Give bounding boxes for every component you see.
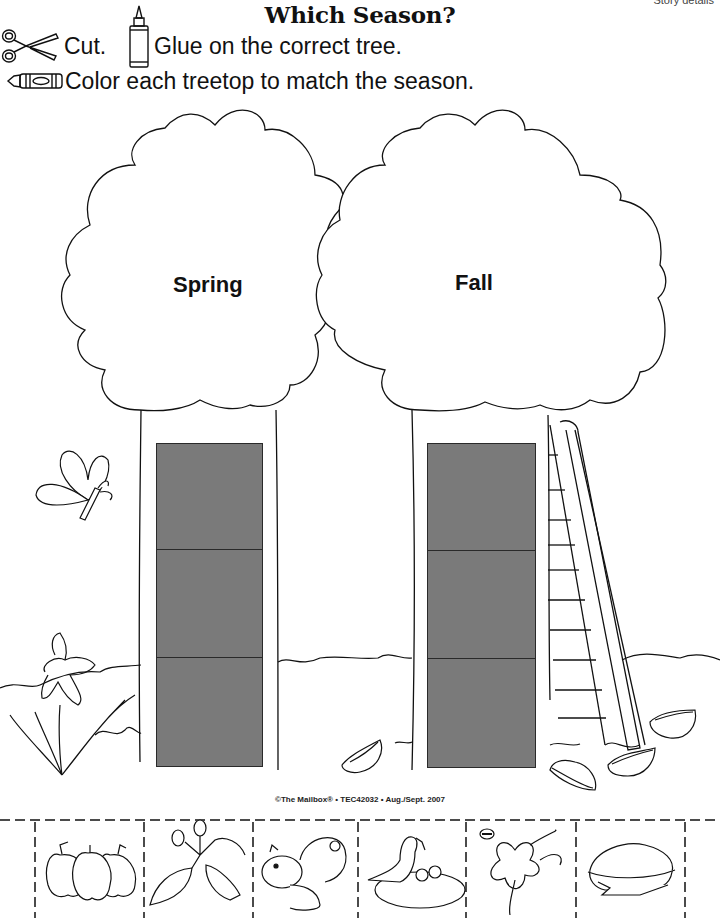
daffodil xyxy=(10,633,135,775)
spring-slot-2[interactable] xyxy=(156,549,263,658)
cutout-leaf-buds xyxy=(150,820,245,905)
cutout-squirrel xyxy=(262,838,346,910)
cutout-bee-flower xyxy=(480,829,561,915)
cutout-apples xyxy=(47,842,136,900)
cutout-bird-nest xyxy=(368,837,465,908)
fall-label: Fall xyxy=(455,270,493,296)
spring-slot-3[interactable] xyxy=(156,657,263,767)
cutout-pie xyxy=(588,844,675,895)
spring-treetop xyxy=(62,110,344,411)
butterfly xyxy=(36,451,112,520)
spring-label: Spring xyxy=(173,272,243,298)
copyright-footer: ©The Mailbox® • TEC42032 • Aug./Sept. 20… xyxy=(0,795,720,804)
fall-slot-3[interactable] xyxy=(427,658,536,768)
spring-slot-1[interactable] xyxy=(156,443,263,550)
fall-slot-1[interactable] xyxy=(427,443,536,551)
fall-treetop xyxy=(316,110,665,411)
ladder xyxy=(548,421,645,750)
fall-slot-2[interactable] xyxy=(427,550,536,659)
tree-scene xyxy=(0,0,720,918)
